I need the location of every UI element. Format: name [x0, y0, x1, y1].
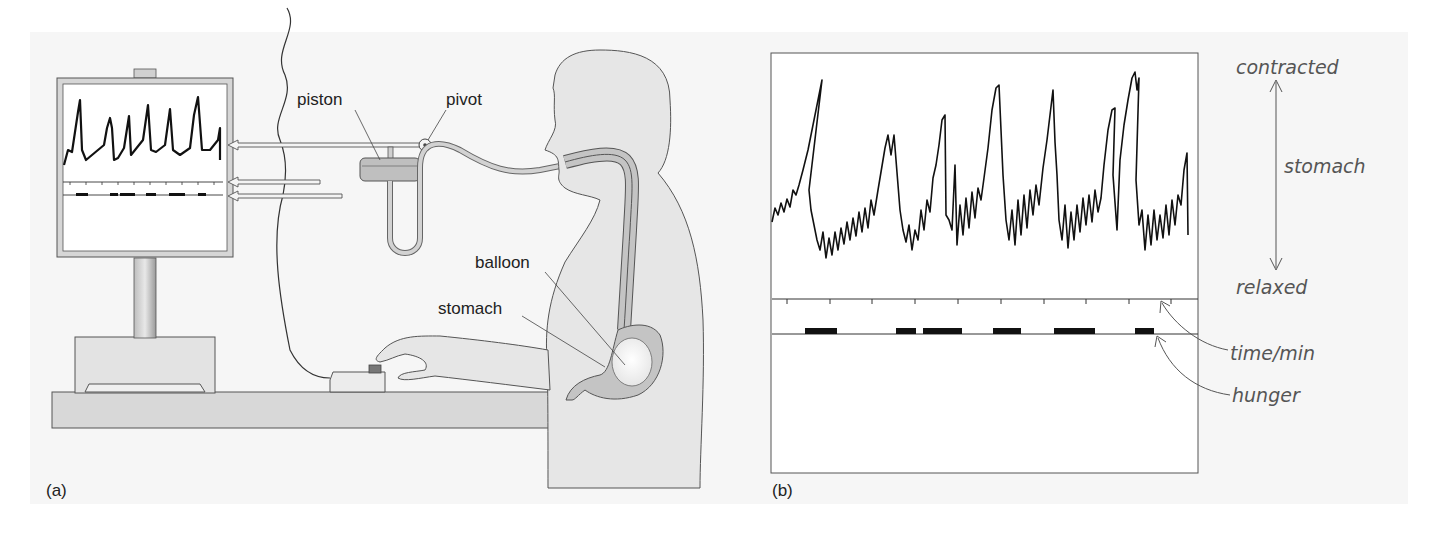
annotation-contracted: contracted: [1236, 56, 1340, 78]
label-pivot: pivot: [446, 90, 482, 109]
panel-a-label: (a): [46, 481, 67, 500]
desk: [52, 392, 557, 428]
pointer-arm-time: [228, 177, 320, 187]
panel-b-label: (b): [772, 481, 793, 500]
recorder-pole: [134, 258, 156, 338]
annotation-stomach: stomach: [1284, 155, 1366, 177]
annotation-relaxed: relaxed: [1236, 276, 1308, 298]
arm: [376, 336, 550, 390]
wire: [277, 8, 330, 378]
recorder-knob: [134, 69, 156, 78]
response-button: [330, 372, 385, 392]
annotation-hunger: hunger: [1232, 384, 1301, 406]
panel-b: contracted stomach relaxed time/min hung…: [771, 53, 1366, 500]
balloon: [612, 338, 652, 386]
label-balloon: balloon: [475, 253, 530, 272]
figure-canvas: piston pivot balloon stomach (a): [0, 0, 1437, 534]
label-stomach: stomach: [438, 299, 502, 318]
recorder-paper: [63, 84, 227, 251]
chart-frame: [771, 53, 1198, 473]
panel-a: piston pivot balloon stomach (a): [46, 8, 703, 500]
label-piston: piston: [297, 90, 342, 109]
piston: [360, 158, 420, 181]
annotation-time: time/min: [1230, 342, 1315, 364]
pointer-arm-hunger: [228, 191, 342, 201]
